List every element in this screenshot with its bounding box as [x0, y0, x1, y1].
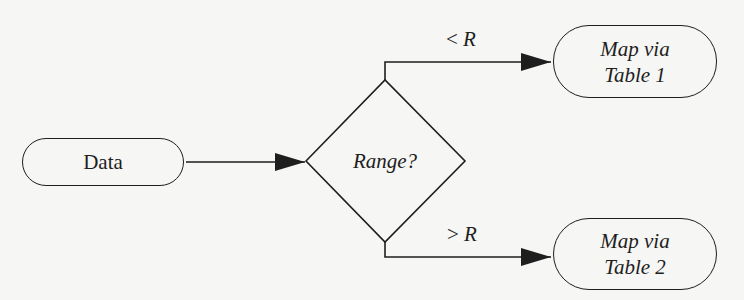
map-table2-node: Map via Table 2: [553, 218, 717, 290]
map-table1-line1: Map via: [600, 36, 669, 62]
data-node: Data: [22, 138, 184, 186]
map-table1-node: Map via Table 1: [553, 25, 717, 98]
map-table1-line2: Table 1: [604, 62, 666, 88]
map-table2-line1: Map via: [600, 228, 669, 254]
map-table2-line2: Table 2: [604, 254, 666, 280]
edge-label-less-than-r: < R: [446, 27, 476, 52]
flowchart-canvas: Data Range? Map via Table 1 Map via Tabl…: [0, 0, 744, 300]
edge-decision-to-table1: [385, 62, 551, 80]
edge-label-greater-than-r: > R: [447, 222, 477, 247]
decision-label: Range?: [353, 149, 417, 174]
data-node-label: Data: [83, 149, 123, 175]
